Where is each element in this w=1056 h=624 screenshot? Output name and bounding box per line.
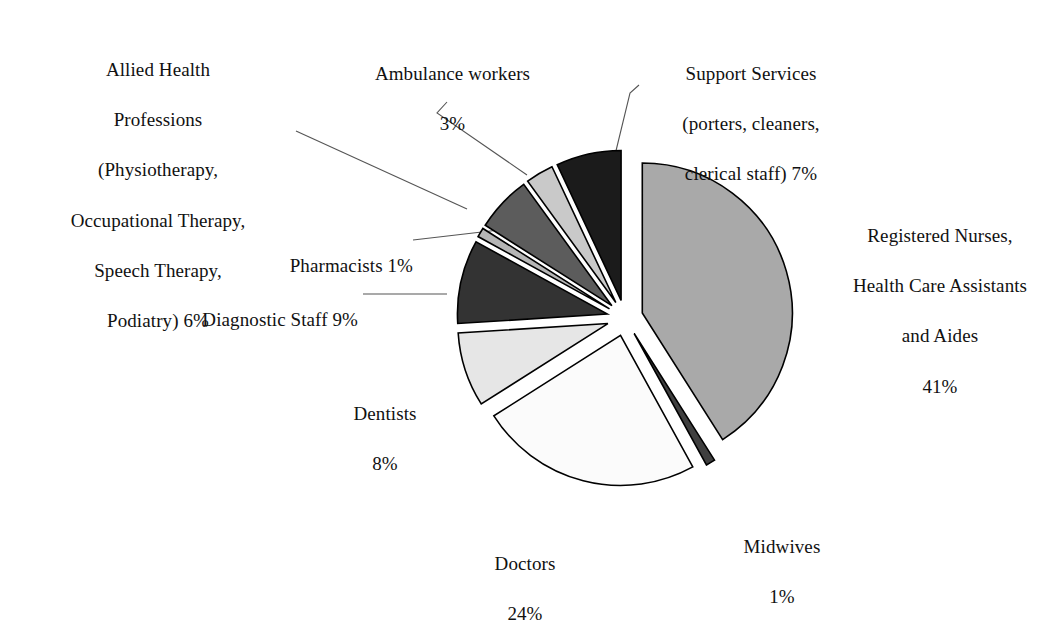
label-line: Support Services [636, 61, 866, 86]
label-line: Registered Nurses, [830, 223, 1050, 248]
label-line: Doctors [470, 551, 580, 576]
label-line: (porters, cleaners, [636, 111, 866, 136]
label-line: and Aides [830, 323, 1050, 348]
label-line: Dentists [330, 401, 440, 426]
label-diagnostic-staff: Diagnostic Staff 9% [153, 282, 358, 357]
label-support-services: Support Services (porters, cleaners, cle… [636, 36, 866, 212]
label-line: Allied Health [18, 57, 298, 82]
label-midwives: Midwives 1% [722, 509, 842, 624]
label-line: 24% [470, 601, 580, 624]
label-line: clerical staff) 7% [636, 161, 866, 186]
label-line: 1% [722, 584, 842, 609]
label-line: Ambulance workers [345, 61, 560, 86]
label-dentists: Dentists 8% [330, 376, 440, 501]
label-line: Health Care Assistants [830, 273, 1050, 298]
label-doctors: Doctors 24% [470, 526, 580, 624]
label-ambulance-workers: Ambulance workers 3% [345, 36, 560, 161]
label-registered-nurses: Registered Nurses, Health Care Assistant… [830, 198, 1050, 424]
label-line: Pharmacists 1% [213, 253, 413, 278]
label-line: 8% [330, 451, 440, 476]
label-line: 3% [345, 111, 560, 136]
label-line: 41% [830, 374, 1050, 399]
label-line: (Physiotherapy, [18, 157, 298, 182]
label-line: Diagnostic Staff 9% [153, 307, 358, 332]
label-line: Midwives [722, 534, 842, 559]
label-line: Professions [18, 107, 298, 132]
